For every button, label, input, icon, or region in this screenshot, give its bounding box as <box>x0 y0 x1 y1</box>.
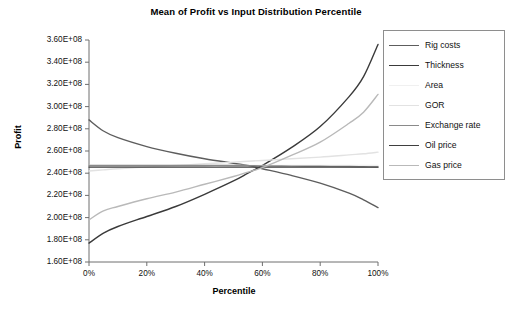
y-tick-label: 3.20E+08 <box>24 79 82 89</box>
legend-swatch-line-icon <box>389 145 419 146</box>
axis-ticks <box>85 40 378 266</box>
y-tick-label: 3.60E+08 <box>24 35 82 45</box>
legend-item-label: Rig costs <box>425 40 460 50</box>
x-tick-label: 20% <box>127 269 167 279</box>
y-tick-label: 3.00E+08 <box>24 102 82 112</box>
legend-item-label: Thickness <box>425 60 464 70</box>
legend-swatch-line-icon <box>389 125 419 126</box>
data-series-group <box>89 44 378 243</box>
x-tick-label: 60% <box>242 269 282 279</box>
legend-swatch-line-icon <box>389 165 419 166</box>
series-line-thickness <box>89 44 378 243</box>
legend-item-label: Oil price <box>425 140 457 150</box>
x-tick-label: 100% <box>358 269 398 279</box>
legend-swatch-line-icon <box>389 105 419 106</box>
legend-swatch-line-icon <box>389 85 419 86</box>
y-tick-label: 2.00E+08 <box>24 213 82 223</box>
x-tick-label: 40% <box>185 269 225 279</box>
chart-legend: Rig costsThicknessAreaGORExchange rateOi… <box>383 30 505 180</box>
legend-item-rig-costs[interactable]: Rig costs <box>384 35 504 55</box>
y-tick-label: 2.60E+08 <box>24 146 82 156</box>
legend-item-oil-price[interactable]: Oil price <box>384 135 504 155</box>
y-tick-label: 1.60E+08 <box>24 257 82 267</box>
legend-item-label: GOR <box>425 100 445 110</box>
y-tick-label: 1.80E+08 <box>24 235 82 245</box>
y-tick-label: 2.80E+08 <box>24 124 82 134</box>
y-tick-label: 3.40E+08 <box>24 57 82 67</box>
legend-item-thickness[interactable]: Thickness <box>384 55 504 75</box>
legend-item-label: Gas price <box>425 160 462 170</box>
legend-item-area[interactable]: Area <box>384 75 504 95</box>
legend-item-label: Exchange rate <box>425 120 480 130</box>
legend-item-exchange-rate[interactable]: Exchange rate <box>384 115 504 135</box>
x-axis-title: Percentile <box>89 286 379 296</box>
chart-container: Mean of Profit vs Input Distribution Per… <box>0 0 512 312</box>
y-tick-label: 2.20E+08 <box>24 190 82 200</box>
axes <box>89 40 378 262</box>
legend-swatch-line-icon <box>389 45 419 46</box>
legend-item-label: Area <box>425 80 443 90</box>
series-line-gor <box>89 152 378 171</box>
legend-swatch-line-icon <box>389 65 419 66</box>
legend-item-gor[interactable]: GOR <box>384 95 504 115</box>
y-axis-title: Profit <box>13 107 23 167</box>
x-tick-label: 0% <box>69 269 109 279</box>
y-tick-label: 2.40E+08 <box>24 168 82 178</box>
legend-item-gas-price[interactable]: Gas price <box>384 155 504 175</box>
x-tick-label: 80% <box>300 269 340 279</box>
